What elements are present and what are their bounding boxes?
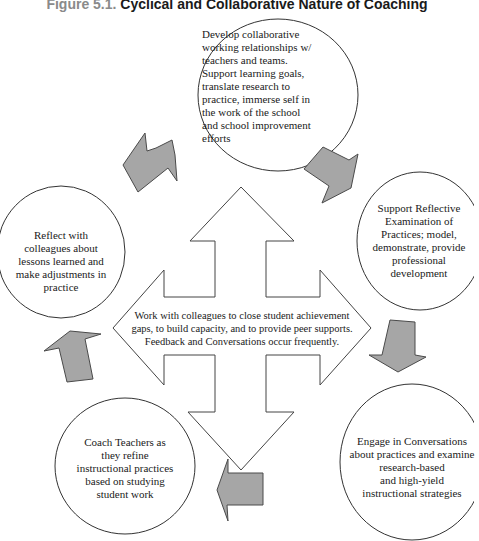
text-line: Engage in Conversations [337, 435, 479, 448]
text-line: Practices; model, [364, 228, 474, 241]
arrow-reflect-to-develop-icon [123, 133, 177, 192]
text-line: Develop collaborative [202, 28, 342, 41]
center-text: Work with colleagues to close student ac… [120, 309, 364, 348]
text-line: teachers and teams. [202, 54, 342, 67]
text-line: working relationships w/ [202, 41, 342, 54]
text-line: and school improvement [202, 119, 342, 132]
text-line: instructional practices [60, 462, 190, 475]
text-line: practice, immerse self in [202, 93, 342, 106]
text-line: efforts [202, 132, 342, 145]
circle-text-develop: Develop collaborative working relationsh… [202, 28, 342, 145]
circle-text-engage: Engage in Conversations about practices … [337, 435, 479, 500]
text-line: make adjustments in [0, 268, 122, 281]
text-line: they refine [60, 449, 190, 462]
text-line: Coach Teachers as [60, 436, 190, 449]
text-line: based on studying [60, 475, 190, 488]
text-line: research-based [337, 461, 479, 474]
text-line: Support learning goals, [202, 67, 342, 80]
text-line: and high-yield [337, 474, 479, 487]
text-line: professional [364, 254, 474, 267]
text-line: Reflect with [0, 229, 122, 242]
arrow-support-to-engage-icon [369, 320, 426, 372]
text-line: development [364, 267, 474, 280]
text-line: Support Reflective [364, 202, 474, 215]
text-line: Examination of [364, 215, 474, 228]
text-line: practice [0, 281, 122, 294]
text-line: demonstrate, provide [364, 241, 474, 254]
circle-text-coach: Coach Teachers as they refine instructio… [60, 436, 190, 501]
text-line: translate research to [202, 80, 342, 93]
arrow-coach-to-reflect-icon [44, 331, 101, 382]
text-line: instructional strategies [337, 487, 479, 500]
text-line: the work of the school [202, 106, 342, 119]
text-line: Work with colleagues to close student ac… [120, 309, 364, 322]
circle-text-support-reflective: Support Reflective Examination of Practi… [364, 202, 474, 280]
text-line: colleagues about [0, 242, 122, 255]
circle-text-reflect: Reflect with colleagues about lessons le… [0, 229, 122, 294]
text-line: student work [60, 488, 190, 501]
text-line: gaps, to build capacity, and to provide … [120, 322, 364, 335]
text-line: Feedback and Conversations occur frequen… [120, 335, 364, 348]
text-line: about practices and examine [337, 448, 479, 461]
text-line: lessons learned and [0, 255, 122, 268]
